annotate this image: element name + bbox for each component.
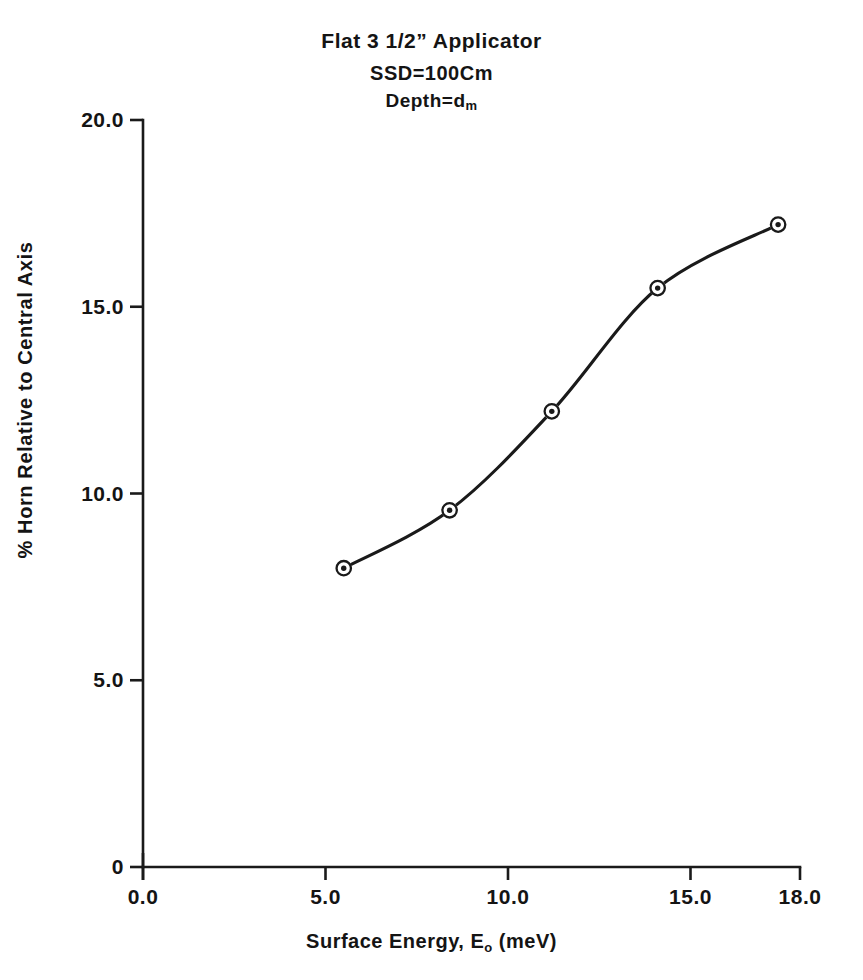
y-axis-tick-label: 10.0 — [20, 482, 124, 506]
x-axis-tick-label: 18.0 — [779, 885, 822, 909]
marker-center-dot — [775, 222, 780, 227]
y-axis-tick-label: 0 — [20, 855, 124, 879]
x-axis-tick-label: 10.0 — [487, 885, 530, 909]
marker-center-dot — [549, 409, 554, 414]
marker-center-dot — [655, 285, 660, 290]
y-axis-tick-label: 15.0 — [20, 295, 124, 319]
y-axis-tick-label: 20.0 — [20, 108, 124, 132]
chart-figure: Flat 3 1/2” Applicator SSD=100Cm Depth=d… — [0, 0, 863, 980]
x-axis-tick-label: 0.0 — [128, 885, 159, 909]
data-series-curve — [344, 225, 778, 569]
data-point-marker — [336, 560, 352, 576]
plot-area — [0, 0, 863, 980]
data-point-marker — [544, 403, 560, 419]
marker-center-dot — [341, 566, 346, 571]
data-point-marker — [770, 216, 786, 232]
x-axis-tick-label: 5.0 — [310, 885, 341, 909]
y-axis-ticks — [130, 120, 143, 867]
data-point-marker — [649, 280, 665, 296]
data-point-markers — [336, 216, 787, 576]
y-axis-tick-label: 5.0 — [20, 668, 124, 692]
data-point-marker — [441, 502, 457, 518]
x-axis-tick-label: 15.0 — [669, 885, 712, 909]
marker-center-dot — [447, 508, 452, 513]
